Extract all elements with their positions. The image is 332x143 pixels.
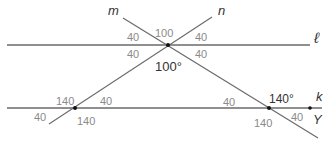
- angle-top-mid-upper: 100: [155, 28, 173, 39]
- angle-right-upper-right: 140°: [269, 93, 294, 105]
- line-m-label: m: [108, 4, 119, 17]
- angle-left-lower-left: 40: [34, 112, 46, 123]
- line-k-label: k: [316, 90, 323, 103]
- line-l-label: ℓ: [314, 30, 319, 45]
- angle-right-upper-left: 40: [223, 97, 235, 108]
- angle-left-upper-right: 40: [100, 96, 112, 107]
- geometry-diagram: m n ℓ k Y 100 40 40 40 40 100° 140 40 40…: [0, 0, 332, 143]
- angle-right-lower-left: 140: [254, 118, 272, 129]
- intersection-point-right: [267, 106, 271, 110]
- angle-top-mid-lower: 100°: [155, 60, 182, 73]
- angle-left-lower-right: 140: [77, 116, 95, 127]
- point-y: [308, 106, 312, 110]
- line-m: [123, 18, 318, 138]
- angle-top-left-upper: 40: [127, 32, 139, 43]
- intersection-point-top: [166, 43, 170, 47]
- angle-top-right-upper: 40: [195, 32, 207, 43]
- angle-top-left-lower: 40: [127, 49, 139, 60]
- point-y-label: Y: [313, 113, 322, 126]
- line-n-label: n: [218, 4, 225, 17]
- angle-left-upper-left: 140: [56, 96, 74, 107]
- angle-top-right-lower: 40: [195, 49, 207, 60]
- angle-right-lower-right: 40: [291, 112, 303, 123]
